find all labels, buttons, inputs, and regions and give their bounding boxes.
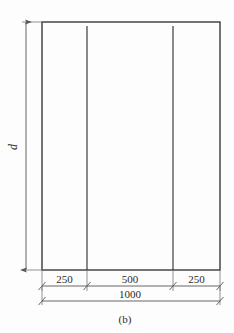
figure-caption: (b)	[119, 313, 132, 326]
dimension-label-overall-1000: 1000	[119, 288, 142, 300]
outline-rect	[42, 22, 220, 270]
technical-drawing-figure: d 250 500 250	[0, 0, 234, 333]
dimension-label-left-250: 250	[56, 273, 73, 285]
depth-label: d	[6, 143, 20, 150]
internal-division-lines	[87, 26, 173, 270]
overall-width-dimension: 1000	[39, 286, 224, 305]
section-drawing-svg: d 250 500 250	[0, 0, 234, 333]
dimension-label-middle-500: 500	[122, 273, 139, 285]
vertical-dimension-d: d	[6, 22, 45, 270]
section-outline	[42, 22, 220, 270]
dimension-label-right-250: 250	[188, 273, 205, 285]
